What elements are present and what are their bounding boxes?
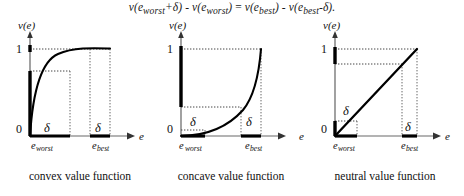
x-label-eworst-sub: worst [36,144,54,153]
y-axis-label: v(e) [169,19,186,32]
y-tick-one-label: 1 [167,42,173,56]
y-tick-one-label: 1 [16,42,22,56]
caption-neutral: neutral value function [300,170,464,182]
chart-convex-value-function: v(e) e 1 0 [2,18,157,168]
x-axis-label: e [445,130,450,142]
equation-term4-v: v( [289,1,298,13]
x-axis-label: e [299,130,304,142]
equation-equals: = [235,1,242,13]
x-axis-arrow-icon [278,133,286,140]
y-tick-one-label: 1 [321,42,327,56]
equation-term3-sub: best [259,5,275,16]
x-axis-arrow-icon [127,133,135,140]
y-axis-label: v(e) [18,19,35,32]
x-label-ebest-sub: best [406,144,419,153]
x-label-ebest-sub: best [97,144,110,153]
equation-line: v(eworst+δ) - v(eworst) = v(ebest) - v(e… [0,1,464,16]
figure-root: v(eworst+δ) - v(eworst) = v(ebest) - v(e… [0,0,464,196]
x-label-eworst-sub: worst [185,144,203,153]
equation-term1-v: v( [129,1,138,13]
equation-term2-sub: worst [206,5,228,16]
equation-term4-tail: -δ). [319,1,335,13]
equation-term1-tail: +δ) [165,1,182,13]
x-axis-arrow-icon [433,133,441,140]
delta-label-right: δ [246,115,252,129]
equation-minus-1: - [185,1,189,13]
x-axis-label: e [139,130,144,142]
y-axis-arrow-icon [178,31,184,38]
equation-term4-sub: best [303,5,319,16]
x-label-ebest-sub: best [250,144,263,153]
y-axis-label: v(e) [323,19,340,32]
caption-convex: convex value function [0,170,165,182]
y-axis-arrow-icon [332,31,338,38]
delta-label-right: δ [95,121,101,135]
y-tick-zero-label: 0 [167,122,173,136]
y-tick-zero-label: 0 [16,122,22,136]
delta-label-right: δ [405,120,411,134]
equation-term1-sub: worst [143,5,165,16]
chart-concave-value-function: v(e) e 1 0 δ δ e worst [153,18,308,168]
x-label-eworst-sub: worst [338,144,356,153]
delta-label-left: δ [44,121,50,135]
x-label-eworst-e: e [179,140,184,151]
equation-term3-tail: ) [275,1,279,13]
delta-label-left: δ [190,115,196,129]
caption-concave: concave value function [146,170,316,182]
equation-term2-tail: ) [228,1,232,13]
delta-label-left: δ [343,104,349,118]
equation-term2-v: v( [192,1,201,13]
equation-minus-2: - [282,1,286,13]
y-axis-arrow-icon [27,31,33,38]
equation-term3-v: v( [245,1,254,13]
y-tick-zero-label: 0 [321,122,327,136]
chart-neutral-value-function: v(e) e 1 0 δ δ e w [305,18,460,168]
